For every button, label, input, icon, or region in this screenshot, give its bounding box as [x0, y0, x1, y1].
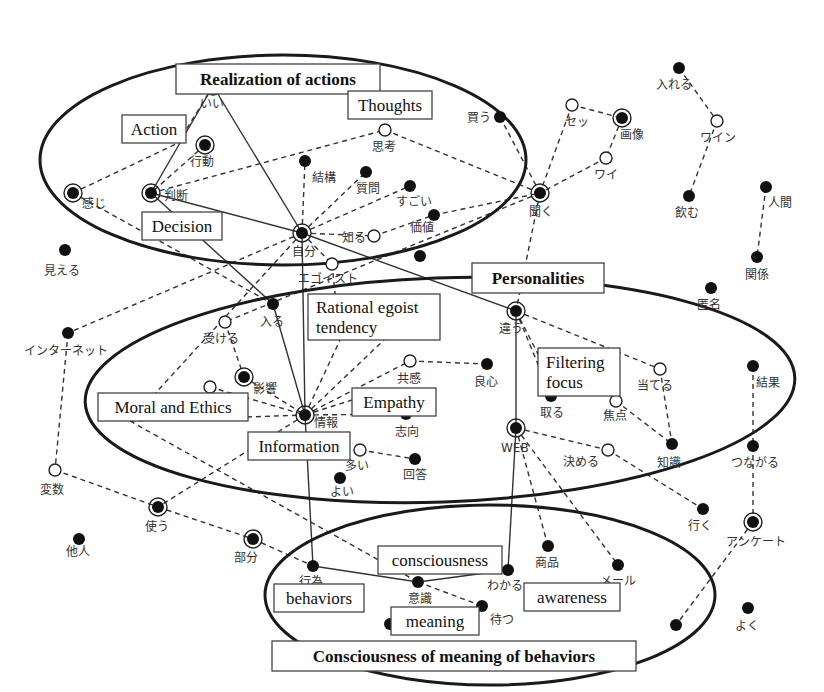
- node-dot-icon: [697, 503, 709, 515]
- cluster-ellipses-layer: [40, 55, 799, 685]
- node-label: 知る: [342, 231, 366, 245]
- category-box-awareness: awareness: [524, 583, 620, 611]
- node-dot-icon: [199, 139, 211, 151]
- node-label: 判断: [164, 188, 188, 203]
- node-kachi: 価値: [410, 209, 440, 235]
- node-tanin: 他人: [66, 533, 90, 559]
- node-label: 当てる: [637, 379, 673, 393]
- node-gazou: 画像: [613, 109, 644, 142]
- node-kyoukan: 共感: [397, 355, 421, 386]
- node-label: 結構: [312, 171, 336, 185]
- edge-kanji-action_box: [73, 143, 178, 193]
- node-label: 結果: [756, 376, 780, 390]
- node-kekka: 結果: [747, 360, 780, 390]
- category-box-empathy: Empathy: [352, 388, 436, 416]
- node-label: 変数: [40, 482, 64, 497]
- node-label: 行く: [688, 519, 712, 533]
- node-matsu: 待つ: [476, 600, 514, 627]
- edge-jibun-jouhou: [302, 233, 305, 415]
- node-open-circle-icon: [602, 444, 614, 456]
- node-label: 志向: [395, 424, 419, 439]
- category-box-moral: Moral and Ethics: [98, 393, 248, 421]
- node-open-circle-icon: [49, 464, 61, 476]
- node-dot-icon: [267, 298, 279, 310]
- node-dot-icon: [409, 453, 421, 465]
- node-koudou: 行動: [190, 136, 214, 169]
- node-open-circle-icon: [204, 381, 216, 393]
- category-box-decision: Decision: [142, 212, 222, 240]
- node-dot-icon: [428, 209, 440, 221]
- node-label: エゴイスト: [298, 271, 358, 286]
- category-box-meaning: meaning: [391, 607, 479, 635]
- node-dot-icon: [747, 440, 759, 452]
- node-sugoi: すごい: [396, 180, 432, 209]
- node-dot-icon: [152, 501, 164, 513]
- category-box-behaviors: behaviors: [274, 584, 364, 612]
- category-box-thoughts: Thoughts: [348, 91, 432, 119]
- node-dot-icon: [247, 533, 259, 545]
- node-label: わかる: [487, 579, 523, 593]
- node-moral_open: [204, 381, 216, 393]
- node-chigau: 違う: [499, 302, 525, 336]
- node-label: 影響: [253, 381, 277, 396]
- category-box-consciousness: consciousness: [378, 546, 502, 574]
- node-dot-icon: [62, 327, 74, 339]
- node-bubun: 部分: [234, 530, 262, 565]
- category-label: Action: [131, 120, 178, 139]
- node-dot-icon: [334, 472, 346, 484]
- node-open-circle-icon: [368, 230, 380, 242]
- node-dot-icon: [145, 187, 157, 199]
- node-chishiki: 知識: [657, 438, 681, 470]
- category-box-action: Action: [122, 115, 186, 143]
- node-label: いい: [200, 97, 224, 111]
- node-shouhin: 商品: [535, 540, 559, 570]
- node-label: 待つ: [490, 613, 514, 627]
- node-label: 質問: [356, 181, 380, 196]
- category-box-personalities: Personalities: [472, 263, 604, 293]
- node-tokumei: 匿名: [697, 282, 721, 312]
- node-dot-icon: [534, 187, 546, 199]
- node-dot-icon: [494, 111, 506, 123]
- node-label: 決める: [563, 455, 599, 469]
- edge-kachi-kiku: [434, 193, 540, 215]
- node-dot-icon: [673, 62, 685, 74]
- node-label: 感じ: [82, 196, 106, 211]
- category-box-cmb: Consciousness of meaning of behaviors: [272, 641, 636, 671]
- node-label: ワイン: [700, 131, 736, 145]
- node-dot-icon: [510, 422, 522, 434]
- node-label: WEB: [501, 441, 529, 455]
- node-ryoushin: 良心: [474, 358, 498, 389]
- node-wai: ワイ: [594, 152, 618, 182]
- node-dot-icon: [412, 576, 424, 588]
- node-dot-icon: [299, 409, 311, 421]
- node-open-circle-icon: [600, 152, 612, 164]
- node-dot-icon: [59, 244, 71, 256]
- category-label: consciousness: [392, 551, 488, 570]
- node-dot-icon: [296, 227, 308, 239]
- node-dot-icon: [510, 305, 522, 317]
- node-dot-icon: [360, 166, 372, 178]
- node-label: 価値: [410, 220, 434, 235]
- node-label: 入る: [260, 315, 284, 329]
- node-label: 受ける: [203, 332, 239, 346]
- node-label: ワイ: [594, 168, 618, 182]
- node-label: 部分: [234, 550, 258, 565]
- node-kau: 買う: [467, 111, 506, 125]
- node-enquete: アンケート: [726, 513, 786, 549]
- node-kankei: 関係: [745, 251, 769, 282]
- node-label: 人間: [768, 196, 792, 210]
- node-internet: インターネット: [24, 327, 108, 358]
- node-dot-icon: [747, 360, 759, 372]
- node-dot-icon: [299, 155, 311, 167]
- node-label: 関係: [745, 268, 769, 282]
- node-dot-icon: [238, 371, 250, 383]
- node-label: アンケート: [726, 535, 786, 549]
- category-label: awareness: [537, 588, 607, 607]
- node-open-circle-icon: [711, 115, 723, 127]
- node-dot-icon: [666, 438, 678, 450]
- node-label: 入れる: [656, 78, 692, 92]
- edge-ooi-kaitou: [360, 450, 415, 459]
- node-label: 買う: [467, 111, 491, 125]
- node-jibun: 自分: [292, 224, 316, 259]
- node-dot-icon: [742, 602, 754, 614]
